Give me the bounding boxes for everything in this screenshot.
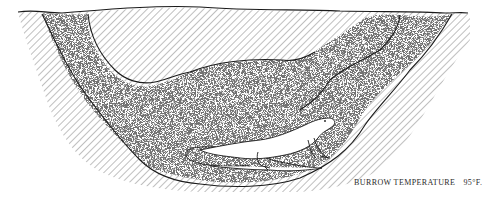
burrow-illustration (0, 0, 486, 203)
caption-label: BURROW TEMPERATURE (354, 178, 455, 187)
caption-temperature: 95°F. (463, 178, 482, 187)
figure-caption: BURROW TEMPERATURE95°F. (354, 178, 482, 187)
